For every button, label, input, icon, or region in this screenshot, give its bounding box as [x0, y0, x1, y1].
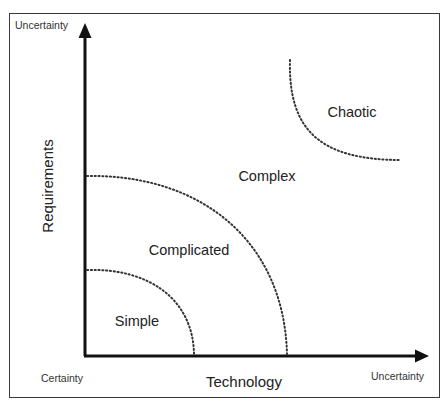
- region-chaotic-label: Chaotic: [327, 104, 376, 120]
- region-complicated-label: Complicated: [149, 242, 230, 258]
- y-axis-arrow-icon: [79, 23, 92, 38]
- x-axis-arrow-icon: [415, 350, 429, 363]
- region-simple-label: Simple: [115, 313, 159, 329]
- y-axis-title: Requirements: [39, 139, 56, 232]
- diagram-canvas: [0, 0, 448, 403]
- x-axis-left-label: Certainty: [41, 372, 83, 384]
- simple-boundary-curve: [87, 270, 194, 354]
- region-complex-label: Complex: [238, 168, 295, 184]
- y-axis-top-label: Uncertainty: [15, 19, 68, 31]
- x-axis-title: Technology: [206, 373, 282, 390]
- x-axis-right-label: Uncertainty: [371, 370, 424, 382]
